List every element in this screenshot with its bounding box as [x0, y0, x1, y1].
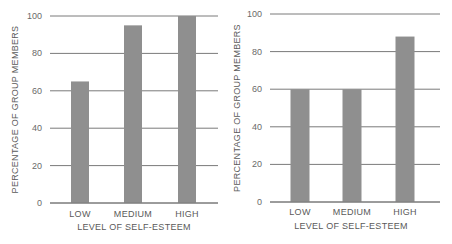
y-tick-label-left-20: 20 — [32, 161, 42, 171]
y-tick-label-left-60: 60 — [32, 86, 42, 96]
y-axis-label-right: PERCENTAGE OF GROUP MEMBERS — [232, 24, 242, 192]
y-tick-label-right-80: 80 — [252, 47, 262, 57]
y-tick-label-right-60: 60 — [252, 84, 262, 94]
bar-right-high — [396, 37, 415, 202]
bar-right-low — [291, 89, 310, 202]
y-tick-label-left-0: 0 — [37, 198, 42, 208]
y-tick-label-left-40: 40 — [32, 123, 42, 133]
bar-chart-left: 020406080100LOWMEDIUMHIGHLEVEL OF SELF-E… — [0, 0, 452, 244]
x-axis-label-left: LEVEL OF SELF-ESTEEM — [77, 222, 191, 232]
y-tick-label-right-20: 20 — [252, 159, 262, 169]
y-tick-label-right-0: 0 — [257, 197, 262, 207]
x-tick-label-right-high: HIGH — [393, 207, 417, 217]
y-axis-label-left: PERCENTAGE OF GROUP MEMBERS — [10, 26, 20, 194]
bar-left-low — [71, 81, 89, 203]
x-tick-label-left-low: LOW — [69, 209, 91, 219]
bar-right-medium — [343, 89, 362, 202]
y-tick-label-left-100: 100 — [27, 11, 42, 21]
bar-left-high — [178, 16, 196, 203]
bar-left-medium — [124, 25, 142, 203]
x-axis-label-right: LEVEL OF SELF-ESTEEM — [294, 221, 408, 231]
y-tick-label-left-80: 80 — [32, 48, 42, 58]
x-tick-label-right-medium: MEDIUM — [333, 207, 371, 217]
x-tick-label-right-low: LOW — [289, 207, 311, 217]
x-tick-label-left-high: HIGH — [175, 209, 199, 219]
x-tick-label-left-medium: MEDIUM — [114, 209, 152, 219]
y-tick-label-right-100: 100 — [247, 9, 262, 19]
y-tick-label-right-40: 40 — [252, 122, 262, 132]
